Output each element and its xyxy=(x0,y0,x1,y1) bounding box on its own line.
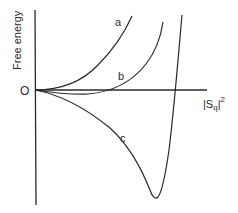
x-axis-label: |Sq|2 xyxy=(203,95,226,112)
y-axis xyxy=(35,10,36,205)
x-axis-label-superscript: 2 xyxy=(221,95,226,104)
y-axis-label: Free energy xyxy=(11,10,23,70)
curve-a-label: a xyxy=(115,16,122,28)
free-energy-diagram: a b c O Free energy |Sq|2 xyxy=(0,0,238,213)
x-axis-label-main: |S xyxy=(203,98,213,110)
curve-c-label: c xyxy=(120,132,126,144)
svg-text:|Sq|2: |Sq|2 xyxy=(203,95,226,112)
curve-c xyxy=(35,15,182,198)
curve-b xyxy=(35,22,163,94)
curve-b-label: b xyxy=(118,70,124,82)
origin-label: O xyxy=(20,84,29,98)
